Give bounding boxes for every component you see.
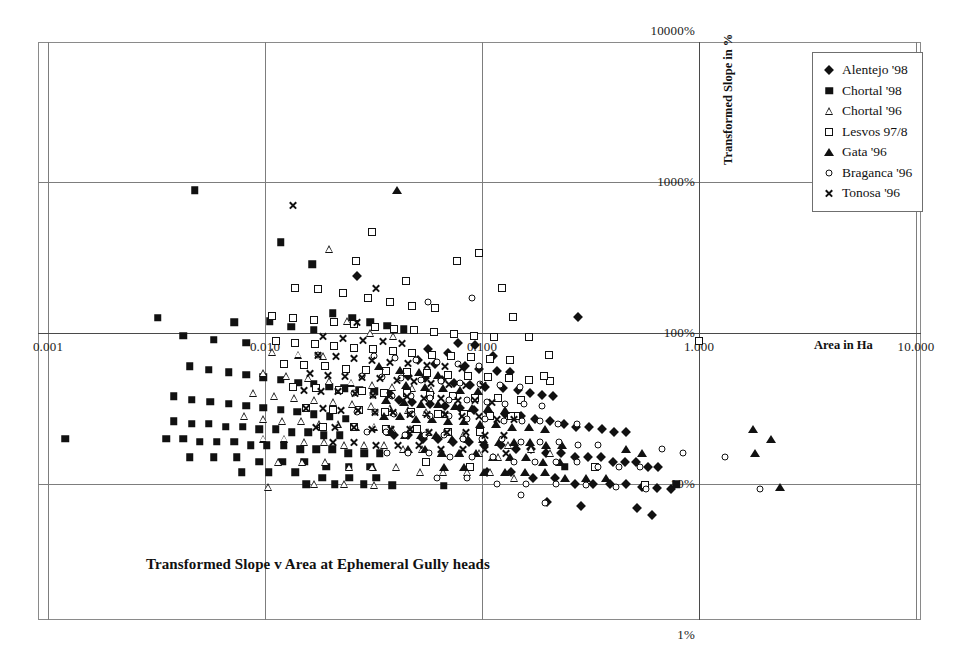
legend-item[interactable]: Alentejo '98: [821, 60, 912, 81]
legend-item[interactable]: Chortal '96: [821, 101, 912, 122]
legend-marker: [821, 63, 837, 77]
legend-item-label: Chortal '98: [842, 83, 902, 99]
chart-title: Transformed Slope v Area at Ephemeral Gu…: [146, 556, 490, 573]
gridline-vertical: [482, 42, 483, 620]
marker-cross-icon: [825, 189, 834, 198]
gridline-vertical: [48, 42, 49, 620]
y-tick-label: 10%: [671, 476, 695, 492]
legend-item-label: Gata '96: [842, 144, 887, 160]
y-tick-label: 1000%: [657, 174, 695, 190]
x-tick-label: 1.000: [684, 339, 714, 355]
y-tick-label: 1%: [677, 627, 695, 643]
legend-item-label: Chortal '96: [842, 103, 902, 119]
legend-item-label: Lesvos 97/8: [842, 124, 908, 140]
legend-item-label: Braganca '96: [842, 165, 912, 181]
gridline-horizontal: [38, 484, 921, 485]
y-tick-label: 100%: [664, 325, 695, 341]
legend-item[interactable]: Braganca '96: [821, 163, 912, 184]
legend-marker: [821, 186, 837, 200]
legend-item[interactable]: Gata '96: [821, 142, 912, 163]
legend-marker: [821, 166, 837, 180]
marker-filled-diamond-icon: [824, 65, 834, 75]
gridline-vertical: [265, 42, 266, 620]
x-tick-label: 10.000: [898, 339, 935, 355]
legend-marker: [821, 125, 837, 139]
legend-item[interactable]: Lesvos 97/8: [821, 122, 912, 143]
x-tick-label: 0.010: [250, 339, 280, 355]
y-axis-line: [699, 42, 700, 620]
legend-marker: [821, 104, 837, 118]
x-tick-label: 0.100: [467, 339, 497, 355]
y-tick-label: 10000%: [650, 23, 695, 39]
x-axis-title: Area in Ha: [814, 338, 873, 353]
chart-canvas: 0.0010.0100.1001.00010.0001%10%100%1000%…: [0, 0, 962, 648]
legend-marker: [821, 84, 837, 98]
x-tick-label: 0.001: [33, 339, 63, 355]
marker-filled-square-icon: [825, 87, 833, 95]
legend-item[interactable]: Chortal '98: [821, 81, 912, 102]
legend-item[interactable]: Tonosa '96: [821, 183, 912, 204]
legend-marker: [821, 145, 837, 159]
chart-legend: Alentejo '98Chortal '98Chortal '96Lesvos…: [812, 52, 923, 212]
marker-open-square-icon: [825, 128, 833, 136]
marker-filled-triangle-icon: [824, 148, 834, 156]
y-axis-title: Transformed Slope in %: [721, 34, 736, 165]
gridline-horizontal: [38, 182, 921, 183]
marker-open-circle-icon: [826, 169, 833, 176]
legend-item-label: Tonosa '96: [842, 185, 900, 201]
x-axis-line: [38, 333, 921, 334]
marker-open-triangle-icon: [825, 107, 833, 115]
legend-item-label: Alentejo '98: [842, 62, 908, 78]
plot-frame: [38, 42, 921, 620]
